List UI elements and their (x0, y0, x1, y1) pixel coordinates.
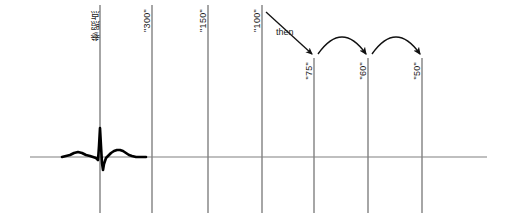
arc-75-to-60 (318, 37, 366, 54)
label-marker-75: "75" (305, 62, 314, 80)
label-marker-60: "60" (359, 62, 368, 80)
arc-60-to-50 (372, 37, 420, 54)
label-marker-100: "100" (253, 9, 262, 32)
vertical-marker-lines (100, 5, 422, 213)
label-reference-point: 参照点 (91, 9, 101, 41)
label-marker-150: "150" (199, 9, 208, 32)
ecg-trace (62, 128, 146, 170)
figure-vector-layer (0, 0, 508, 224)
then-label: then (276, 27, 294, 37)
label-marker-300: "300" (143, 9, 152, 32)
label-marker-50: "50" (413, 62, 422, 80)
figure-canvas: 参照点"300""150""100""75""60""50" then (0, 0, 508, 224)
